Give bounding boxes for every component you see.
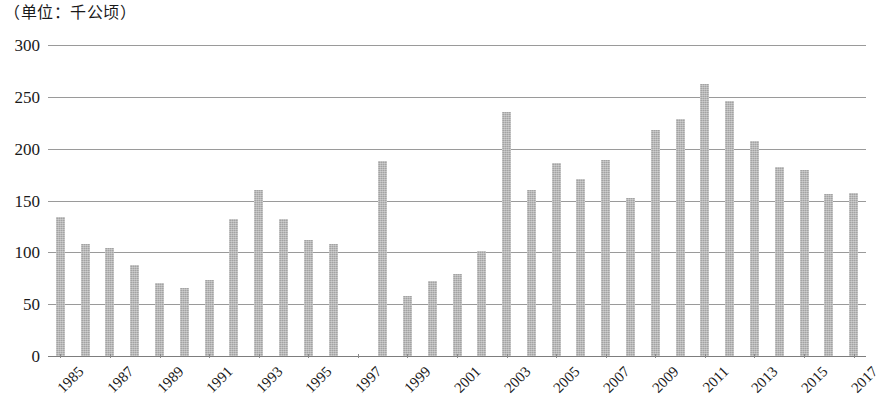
bar — [824, 194, 833, 356]
bar — [527, 190, 536, 356]
x-axis-tick-mark — [507, 354, 508, 358]
x-axis-tick-label: 2011 — [693, 364, 732, 403]
x-axis-tick-label: 1993 — [246, 364, 285, 403]
x-axis-tick-mark — [60, 354, 61, 358]
bar — [105, 248, 114, 356]
x-axis-tick-mark — [407, 354, 408, 358]
bar — [651, 130, 660, 356]
y-axis-tick-labels: 050100150200250300 — [0, 45, 44, 356]
x-axis-tick-label: 2009 — [643, 364, 682, 403]
bar — [279, 219, 288, 356]
x-axis-tick-mark — [854, 354, 855, 358]
x-axis-tick-mark — [655, 354, 656, 358]
y-axis-tick-label: 300 — [0, 37, 40, 54]
bar — [800, 170, 809, 356]
x-axis-tick-label: 2003 — [494, 364, 533, 403]
bar — [700, 84, 709, 356]
x-axis-tick-mark — [705, 354, 706, 358]
x-axis-tick-label: 2017 — [841, 364, 880, 403]
x-axis-tick-label: 1989 — [147, 364, 186, 403]
x-axis-tick-mark — [308, 354, 309, 358]
bar — [304, 240, 313, 356]
bar — [205, 280, 214, 356]
x-axis-tick-label: 1999 — [395, 364, 434, 403]
bar — [81, 244, 90, 356]
x-axis-tick-label: 1987 — [98, 364, 137, 403]
y-axis-tick-label: 100 — [0, 244, 40, 261]
x-axis-tick-mark — [259, 354, 260, 358]
x-axis-tick-mark — [160, 354, 161, 358]
bar — [155, 283, 164, 356]
x-axis-tick-mark — [110, 354, 111, 358]
x-axis-tick-label: 1995 — [296, 364, 335, 403]
y-axis-tick-label: 50 — [0, 296, 40, 313]
x-axis-tick-label: 2015 — [792, 364, 831, 403]
bar — [626, 198, 635, 356]
bar — [56, 217, 65, 356]
bar — [254, 190, 263, 356]
y-axis-tick-label: 150 — [0, 193, 40, 210]
y-axis-tick-label: 200 — [0, 141, 40, 158]
x-axis-tick-mark — [209, 354, 210, 358]
x-axis-tick-mark — [804, 354, 805, 358]
bar — [775, 167, 784, 356]
bar — [329, 244, 338, 356]
bar — [676, 119, 685, 356]
bar — [601, 160, 610, 356]
x-axis-tick-label: 1991 — [197, 364, 236, 403]
y-axis-tick-label: 250 — [0, 89, 40, 106]
bar — [378, 161, 387, 356]
x-axis-tick-label: 2005 — [544, 364, 583, 403]
bar — [576, 179, 585, 356]
bar — [750, 141, 759, 356]
bar — [180, 288, 189, 356]
bar — [849, 193, 858, 356]
x-axis-tick-labels: 1985198719891991199319951997199920012003… — [48, 358, 866, 403]
bar — [130, 265, 139, 356]
bar — [477, 251, 486, 356]
x-axis-tick-mark — [754, 354, 755, 358]
bar — [403, 296, 412, 356]
x-axis-tick-mark — [457, 354, 458, 358]
bar — [725, 101, 734, 356]
bar — [502, 112, 511, 356]
bar — [428, 281, 437, 356]
y-axis-tick-label: 0 — [0, 348, 40, 365]
x-axis-tick-label: 1997 — [346, 364, 385, 403]
bars-layer — [48, 45, 866, 356]
bar — [552, 163, 561, 356]
x-axis-tick-mark — [358, 354, 359, 358]
bar — [229, 219, 238, 356]
x-axis-tick-label: 2013 — [742, 364, 781, 403]
unit-caption: （单位：千公顷） — [4, 2, 136, 24]
x-axis-tick-label: 1985 — [48, 364, 87, 403]
x-axis-tick-label: 2001 — [445, 364, 484, 403]
x-axis-tick-label: 2007 — [593, 364, 632, 403]
x-axis-tick-mark — [556, 354, 557, 358]
x-axis-tick-mark — [606, 354, 607, 358]
bar — [453, 274, 462, 356]
